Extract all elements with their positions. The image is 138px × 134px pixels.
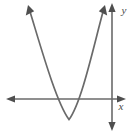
parabola-curve <box>30 10 104 120</box>
x-axis-left-arrow-icon <box>6 95 15 102</box>
x-axis-label: x <box>118 100 124 112</box>
graph-canvas: y x <box>0 0 138 134</box>
y-axis-up-arrow-icon <box>108 3 115 12</box>
y-axis-down-arrow-icon <box>108 122 115 131</box>
y-axis-label: y <box>121 4 127 16</box>
parabola-figure: y x <box>0 0 138 134</box>
